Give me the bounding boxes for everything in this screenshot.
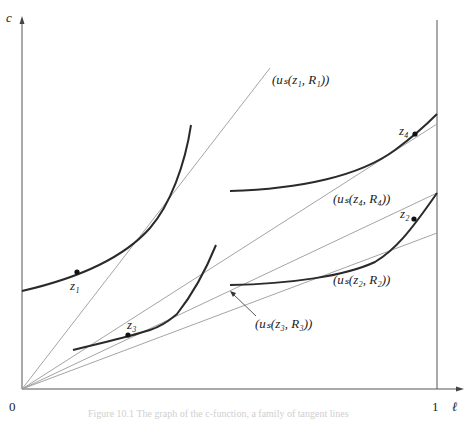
tangent-label-z4: (uₛ(z₄, R₄)) bbox=[333, 191, 390, 206]
curves bbox=[22, 114, 437, 350]
point-label-z2: z₂ bbox=[399, 206, 410, 221]
axes bbox=[20, 16, 465, 392]
z3-label-pointer bbox=[230, 291, 256, 316]
tangent-label-z2: (uₛ(z₂, R₂)) bbox=[333, 272, 390, 287]
pointer-line bbox=[233, 294, 256, 316]
point-label-z4: z₄ bbox=[398, 123, 409, 138]
point-z2 bbox=[411, 216, 416, 221]
tangent-lines bbox=[22, 68, 437, 389]
point-z3 bbox=[125, 332, 130, 337]
origin-label: 0 bbox=[9, 399, 16, 414]
tangent-label-z1: (uₛ(z₁, R₁)) bbox=[272, 72, 329, 87]
point-label-z3: z₃ bbox=[126, 317, 137, 332]
x-axis-arrow-icon bbox=[456, 387, 464, 392]
curve-z1 bbox=[22, 125, 191, 291]
y-axis-label: c bbox=[6, 10, 12, 25]
diagram-canvas: c ℓ 0 1 z₁ z₃ z₄ z₂ (uₛ(z₁, R₁)) (uₛ(z₄,… bbox=[0, 0, 476, 421]
point-z4 bbox=[412, 131, 417, 136]
x-axis-label: ℓ bbox=[452, 399, 458, 414]
figure-caption: Figure 10.1 The graph of the c-function,… bbox=[88, 408, 349, 419]
curve-z3 bbox=[73, 245, 216, 350]
point-z1 bbox=[74, 269, 79, 274]
tangent-line-z1 bbox=[22, 68, 270, 389]
y-axis-arrow-icon bbox=[20, 16, 25, 24]
x-tick-label-1: 1 bbox=[432, 399, 439, 414]
point-label-z1: z₁ bbox=[69, 278, 80, 293]
tangent-line-z2 bbox=[22, 193, 437, 389]
tangent-label-z3: (uₛ(z₃, R₃)) bbox=[255, 316, 312, 331]
